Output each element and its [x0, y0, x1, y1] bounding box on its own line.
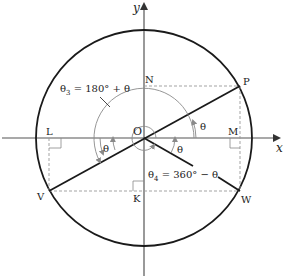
theta4-equation: θ4 = 360° − θ	[148, 169, 218, 183]
point-W-label: W	[241, 194, 252, 205]
point-M-label: M	[228, 126, 238, 137]
point-N-label: N	[145, 74, 154, 85]
theta-q4-label: θ	[177, 144, 183, 155]
origin-label: O	[133, 125, 142, 138]
theta3-leader	[100, 97, 110, 107]
theta-q3-label: θ	[103, 143, 109, 154]
theta-q1-label: θ	[200, 121, 206, 132]
y-axis-label: y	[132, 1, 140, 15]
x-axis-label: x	[276, 141, 283, 155]
point-L-label: L	[46, 126, 53, 137]
theta-arc-q4	[171, 138, 175, 153]
unit-circle-diagram: y x O P N M L V K W θ θ θ θ3 = 180° + θ …	[0, 0, 283, 276]
theta-arc-q3-inner	[113, 138, 115, 150]
point-P-label: P	[243, 76, 250, 87]
radius-line-OW	[144, 138, 193, 166]
point-K-label: K	[133, 193, 141, 204]
point-V-label: V	[36, 191, 45, 202]
radius-line-W-tail	[218, 177, 240, 191]
